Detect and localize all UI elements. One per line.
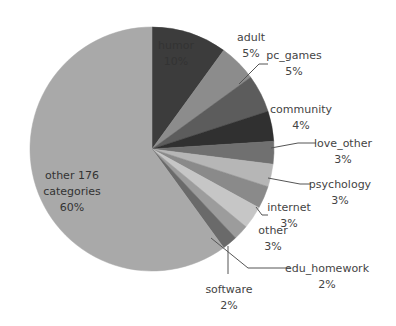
label-text: internet — [267, 200, 311, 216]
label-pc_games: pc_games5% — [266, 48, 321, 80]
label-text: 3% — [258, 239, 287, 255]
label-community: community4% — [270, 102, 332, 134]
label-other: other3% — [258, 223, 287, 255]
label-software: software2% — [205, 282, 252, 314]
label-text: 3% — [309, 193, 371, 209]
label-text: 3% — [314, 152, 372, 168]
label-text: categories — [43, 184, 101, 200]
label-text: 10% — [158, 54, 194, 70]
label-text: edu_homework — [285, 261, 369, 277]
label-psychology: psychology3% — [309, 177, 371, 209]
label-text: community — [270, 102, 332, 118]
label-text: humor — [158, 38, 194, 54]
label-text: pc_games — [266, 48, 321, 64]
label-text: 5% — [266, 64, 321, 80]
label-text: 60% — [43, 200, 101, 216]
label-text: psychology — [309, 177, 371, 193]
label-humor: humor10% — [158, 38, 194, 70]
label-text: 5% — [237, 46, 265, 62]
label-other-176-categories: other 176categories60% — [43, 168, 101, 216]
label-edu_homework: edu_homework2% — [285, 261, 369, 293]
label-text: other 176 — [43, 168, 101, 184]
label-text: love_other — [314, 136, 372, 152]
label-text: other — [258, 223, 287, 239]
label-text: software — [205, 282, 252, 298]
pie-slices — [30, 27, 274, 271]
label-text: 2% — [285, 277, 369, 293]
label-text: 2% — [205, 298, 252, 314]
leader-line-psychology — [268, 178, 311, 184]
label-text: adult — [237, 30, 265, 46]
label-text: 4% — [270, 118, 332, 134]
leader-line-love-other — [271, 143, 316, 148]
label-adult: adult5% — [237, 30, 265, 62]
label-love_other: love_other3% — [314, 136, 372, 168]
